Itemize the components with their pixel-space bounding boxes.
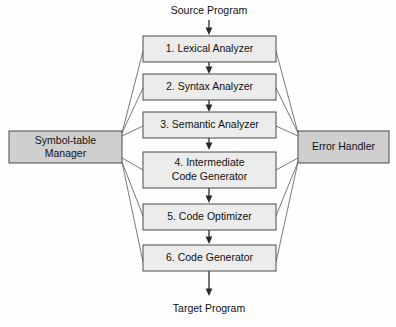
side-label-symbol-table-manager-line2: Manager: [45, 147, 87, 159]
connector-symbol-to-optimizer: [122, 162, 143, 216]
side-box-symbol-table-manager[interactable]: Symbol-table Manager: [9, 131, 122, 163]
connector-symbol-to-lexical: [122, 51, 143, 133]
phase-box-code-generator[interactable]: 6. Code Generator: [143, 245, 276, 271]
source-program-label: Source Program: [171, 4, 248, 16]
phase-label-semantic-analyzer: 3. Semantic Analyzer: [160, 118, 259, 130]
connector-semantic-to-error: [276, 126, 298, 136]
flow-arrow-1-to-2: [206, 62, 213, 74]
phase-label-intermediate-code-generator-line2: Code Generator: [172, 170, 248, 182]
phase-box-syntax-analyzer[interactable]: 2. Syntax Analyzer: [143, 74, 276, 100]
phase-box-lexical-analyzer[interactable]: 1. Lexical Analyzer: [143, 36, 276, 62]
side-label-error-handler: Error Handler: [312, 140, 376, 152]
connector-symbol-to-syntax: [122, 88, 143, 133]
diagram-canvas: Source Program 1. Lexical Analyzer 2. Sy…: [0, 0, 396, 327]
connector-codegen-to-error: [276, 162, 298, 262]
flow-arrow-2-to-3: [206, 100, 213, 112]
connector-symbol-to-codegen: [122, 162, 143, 262]
flow-arrow-5-to-6: [206, 230, 213, 244]
phase-label-lexical-analyzer: 1. Lexical Analyzer: [166, 42, 254, 54]
connector-intermediate-to-error: [276, 158, 298, 170]
phase-label-code-optimizer: 5. Code Optimizer: [167, 210, 252, 222]
connector-symbol-to-intermediate: [122, 158, 143, 170]
phase-box-semantic-analyzer[interactable]: 3. Semantic Analyzer: [143, 112, 276, 138]
phase-label-intermediate-code-generator-line1: 4. Intermediate: [174, 156, 244, 168]
symbol-table-connectors: [122, 51, 143, 262]
source-program-arrow: [206, 20, 213, 35]
connector-lexical-to-error: [276, 51, 298, 133]
target-program-label: Target Program: [173, 302, 246, 314]
phase-label-code-generator: 6. Code Generator: [166, 251, 253, 263]
connector-symbol-to-semantic: [122, 126, 143, 136]
side-box-error-handler[interactable]: Error Handler: [298, 131, 389, 163]
phase-box-intermediate-code-generator[interactable]: 4. Intermediate Code Generator: [143, 152, 276, 188]
error-handler-connectors: [276, 51, 298, 262]
connector-syntax-to-error: [276, 88, 298, 133]
phase-box-code-optimizer[interactable]: 5. Code Optimizer: [143, 204, 276, 230]
side-label-symbol-table-manager-line1: Symbol-table: [35, 134, 96, 146]
phase-label-syntax-analyzer: 2. Syntax Analyzer: [166, 80, 253, 92]
compiler-phases-diagram: Source Program 1. Lexical Analyzer 2. Sy…: [0, 0, 396, 327]
flow-arrow-3-to-4: [206, 138, 213, 150]
target-program-arrow: [206, 271, 213, 296]
connector-optimizer-to-error: [276, 162, 298, 216]
flow-arrow-4-to-5: [206, 188, 213, 203]
